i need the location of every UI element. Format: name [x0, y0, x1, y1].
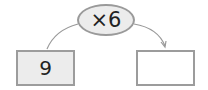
input-connector — [47, 24, 78, 49]
operation-oval: ×6 — [77, 4, 135, 36]
output-arrow — [134, 24, 165, 46]
input-box: 9 — [16, 50, 75, 86]
answer-box[interactable] — [136, 50, 195, 86]
